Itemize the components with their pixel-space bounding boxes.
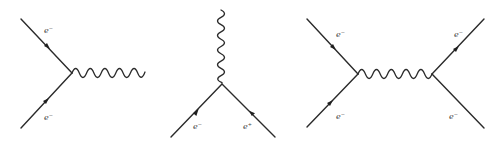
label-electron-top-right: e⁻ (454, 30, 463, 39)
diagram-3: e⁻ e⁻ e⁻ e⁻ (307, 19, 484, 128)
label-electron-bottom-right: e⁻ (449, 112, 458, 121)
feynman-diagrams: e⁻ e⁻ e⁻ e⁺ e⁻ e⁻ e⁻ e⁻ (0, 0, 497, 144)
fermion-line-bottom-right (432, 74, 484, 128)
label-electron-top: e⁻ (44, 26, 53, 35)
label-electron: e⁻ (193, 122, 202, 131)
photon-wavy-line (72, 69, 145, 78)
diagram-2: e⁻ e⁺ (171, 10, 275, 137)
diagram-1: e⁻ e⁻ (21, 19, 145, 128)
label-electron-bottom-left: e⁻ (336, 112, 345, 121)
label-electron-top-left: e⁻ (336, 30, 345, 39)
photon-wavy-line (218, 10, 225, 83)
photon-wavy-line (358, 70, 432, 79)
label-positron: e⁺ (243, 122, 252, 131)
label-electron-bottom: e⁻ (44, 113, 53, 122)
